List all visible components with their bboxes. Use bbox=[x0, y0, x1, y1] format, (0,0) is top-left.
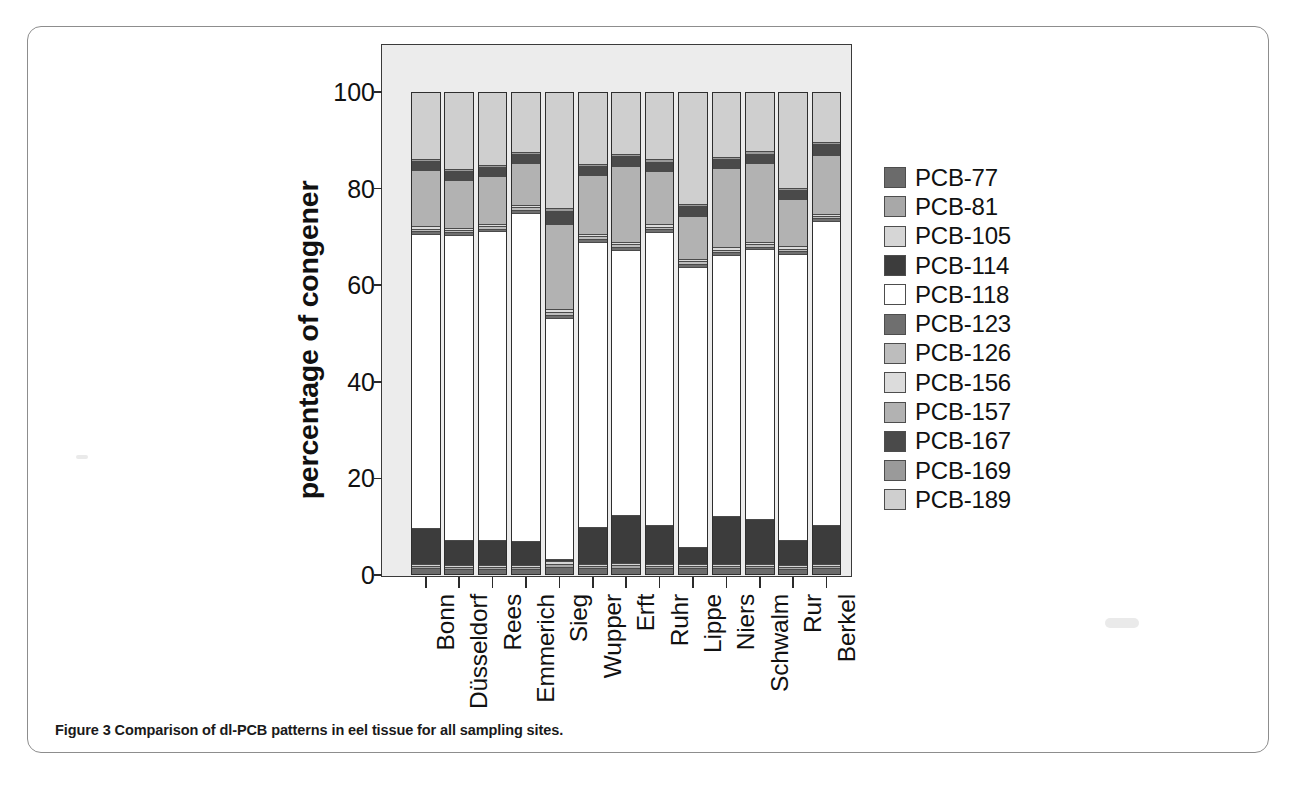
legend-swatch-icon bbox=[884, 489, 906, 510]
x-tick-mark bbox=[659, 577, 661, 588]
legend-label: PCB-105 bbox=[915, 222, 1011, 250]
bar-wupper[interactable] bbox=[578, 92, 608, 575]
legend-label: PCB-123 bbox=[915, 310, 1011, 338]
bar-segment bbox=[646, 171, 674, 224]
bar-segment bbox=[713, 168, 741, 247]
bar-segment bbox=[779, 254, 807, 540]
bar-d-sseldorf[interactable] bbox=[444, 92, 474, 575]
bar-segment bbox=[579, 242, 607, 528]
bar-segment bbox=[445, 540, 473, 565]
bar-erft[interactable] bbox=[611, 92, 641, 575]
legend-label: PCB-126 bbox=[915, 339, 1011, 367]
bar-bonn[interactable] bbox=[411, 92, 441, 575]
legend-item[interactable]: PCB-81 bbox=[884, 192, 1074, 221]
legend-label: PCB-81 bbox=[915, 193, 998, 221]
y-tick-mark bbox=[374, 574, 382, 576]
bar-segment bbox=[479, 569, 507, 574]
legend-item[interactable]: PCB-126 bbox=[884, 339, 1074, 368]
bar-segment bbox=[412, 161, 440, 170]
legend-swatch-icon bbox=[884, 196, 906, 217]
bar-segment bbox=[713, 568, 741, 574]
y-axis-ticks: 020406080100 bbox=[300, 0, 375, 791]
bar-segment bbox=[779, 199, 807, 246]
bar-segment bbox=[713, 255, 741, 516]
figure-caption-label: Figure 3 bbox=[55, 722, 111, 738]
bar-segment bbox=[479, 167, 507, 176]
bar-segment bbox=[412, 234, 440, 528]
bar-segment bbox=[813, 221, 841, 525]
bar-segment bbox=[579, 175, 607, 234]
bar-lippe[interactable] bbox=[678, 92, 708, 575]
legend-item[interactable]: PCB-105 bbox=[884, 222, 1074, 251]
x-tick-mark bbox=[625, 577, 627, 588]
x-tick-label-text: Wupper bbox=[599, 594, 627, 678]
bar-segment bbox=[813, 568, 841, 574]
legend-item[interactable]: PCB-156 bbox=[884, 368, 1074, 397]
y-tick-mark bbox=[374, 478, 382, 480]
bar-segment bbox=[779, 93, 807, 188]
bar-niers[interactable] bbox=[712, 92, 742, 575]
bar-segment bbox=[546, 211, 574, 224]
bar-segment bbox=[512, 213, 540, 542]
x-tick-mark bbox=[826, 577, 828, 588]
bar-segment bbox=[746, 93, 774, 151]
bar-berkel[interactable] bbox=[812, 92, 842, 575]
legend-item[interactable]: PCB-114 bbox=[884, 251, 1074, 280]
y-tick-label: 20 bbox=[307, 464, 375, 493]
bar-segment bbox=[479, 540, 507, 565]
bar-segment bbox=[512, 154, 540, 163]
legend-item[interactable]: PCB-77 bbox=[884, 163, 1074, 192]
legend-item[interactable]: PCB-123 bbox=[884, 309, 1074, 338]
bar-segment bbox=[512, 569, 540, 574]
y-tick-label: 0 bbox=[307, 561, 375, 590]
x-tick-label-text: Erft bbox=[632, 594, 660, 631]
bar-segment bbox=[746, 519, 774, 564]
bar-segment bbox=[813, 93, 841, 142]
legend-label: PCB-77 bbox=[915, 164, 998, 192]
bar-sieg[interactable] bbox=[545, 92, 575, 575]
bar-segment bbox=[546, 318, 574, 559]
bar-segment bbox=[679, 93, 707, 204]
bar-segment bbox=[412, 170, 440, 226]
bar-ruhr[interactable] bbox=[645, 92, 675, 575]
figure-caption-text: Comparison of dl-PCB patterns in eel tis… bbox=[115, 722, 564, 738]
x-tick-label-text: Schwalm bbox=[766, 594, 794, 692]
legend-item[interactable]: PCB-157 bbox=[884, 397, 1074, 426]
legend-item[interactable]: PCB-189 bbox=[884, 485, 1074, 514]
bar-rees[interactable] bbox=[478, 92, 508, 575]
y-tick-label: 80 bbox=[307, 174, 375, 203]
bar-segment bbox=[579, 166, 607, 175]
bar-segment bbox=[612, 568, 640, 574]
bar-rur[interactable] bbox=[778, 92, 808, 575]
bar-segment bbox=[612, 156, 640, 165]
legend-item[interactable]: PCB-167 bbox=[884, 427, 1074, 456]
bar-segment bbox=[646, 162, 674, 171]
bar-segment bbox=[579, 93, 607, 164]
x-tick-mark bbox=[792, 577, 794, 588]
bar-segment bbox=[479, 176, 507, 224]
stacked-bar-chart: percentage of congener 020406080100 PCB-… bbox=[0, 0, 1298, 791]
legend-label: PCB-156 bbox=[915, 369, 1011, 397]
bar-segment bbox=[445, 180, 473, 228]
bar-segment bbox=[546, 224, 574, 309]
y-tick-label: 40 bbox=[307, 367, 375, 396]
bar-segment bbox=[779, 190, 807, 199]
figure-caption: Figure 3 Comparison of dl-PCB patterns i… bbox=[55, 722, 1235, 738]
bar-segment bbox=[579, 568, 607, 574]
bar-segment bbox=[713, 516, 741, 564]
bar-segment bbox=[512, 163, 540, 205]
bar-segment bbox=[713, 93, 741, 157]
legend-item[interactable]: PCB-118 bbox=[884, 280, 1074, 309]
bar-emmerich[interactable] bbox=[511, 92, 541, 575]
bar-segment bbox=[779, 540, 807, 565]
bar-segment bbox=[612, 250, 640, 516]
y-tick-mark bbox=[374, 284, 382, 286]
bar-segment bbox=[612, 93, 640, 154]
legend-label: PCB-189 bbox=[915, 486, 1011, 514]
y-tick-mark bbox=[374, 188, 382, 190]
bar-schwalm[interactable] bbox=[745, 92, 775, 575]
bar-segment bbox=[445, 93, 473, 169]
y-tick-label: 60 bbox=[307, 271, 375, 300]
legend-label: PCB-118 bbox=[915, 281, 1009, 309]
legend-item[interactable]: PCB-169 bbox=[884, 456, 1074, 485]
